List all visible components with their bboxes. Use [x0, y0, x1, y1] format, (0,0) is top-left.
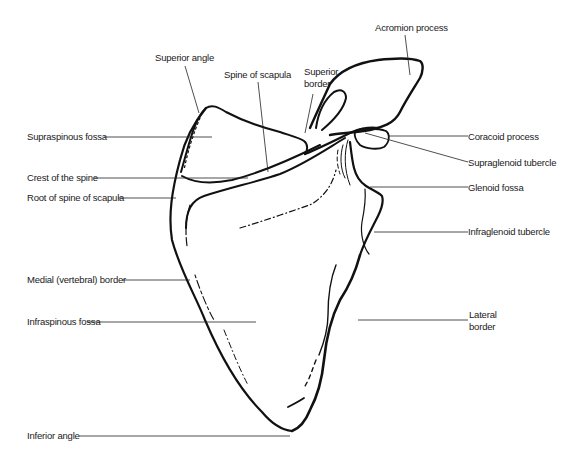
ridge-dashed: [240, 170, 336, 228]
glenoid-stroke-3: [337, 150, 340, 174]
infraglenoid-outline: [350, 142, 383, 255]
leader-superior-angle: [185, 66, 199, 113]
glenoid-stroke-2: [341, 145, 345, 178]
label-coracoid-process: Coracoid process: [468, 131, 539, 142]
label-acromion-process: Acromion process: [375, 22, 448, 33]
superior-border-process: [316, 90, 346, 130]
label-glenoid-fossa: Glenoid fossa: [468, 182, 524, 193]
label-superior-angle: Superior angle: [155, 52, 214, 63]
label-crest-of-the-spine: Crest of the spine: [27, 172, 98, 183]
scapula-diagram: Acromion process Superior angle Spine of…: [0, 0, 579, 467]
medial-inner-dashed-2: [195, 275, 214, 320]
inferior-inner-stroke: [288, 398, 304, 407]
label-lateral-border-line2: border: [469, 321, 495, 332]
superior-angle-dotted: [184, 118, 200, 170]
label-supraglenoid-tubercle: Supraglenoid tubercle: [468, 157, 556, 168]
leader-acromion: [405, 35, 410, 75]
lateral-border-outline: [292, 255, 360, 431]
label-supraspinous-fossa: Supraspinous fossa: [27, 131, 107, 142]
label-inferior-angle: Inferior angle: [27, 430, 80, 441]
leader-superior-border: [305, 94, 313, 133]
label-spine-of-scapula: Spine of scapula: [224, 69, 291, 80]
medial-inner-dashed-3: [224, 330, 248, 385]
medial-border-outline: [170, 108, 292, 431]
label-lateral-border-line1: Lateral: [469, 309, 497, 320]
label-medial-border: Medial (vertebral) border: [27, 274, 126, 285]
label-infraspinous-fossa: Infraspinous fossa: [27, 316, 101, 327]
lateral-inner-dash: [305, 360, 316, 386]
glenoid-stroke-1: [345, 140, 350, 185]
label-superior-border-line2: border: [304, 78, 330, 89]
label-root-of-spine: Root of spine of scapula: [27, 192, 124, 203]
label-superior-border-line1: Superior: [304, 66, 338, 77]
label-infraglenoid-tubercle: Infraglenoid tubercle: [468, 226, 550, 237]
